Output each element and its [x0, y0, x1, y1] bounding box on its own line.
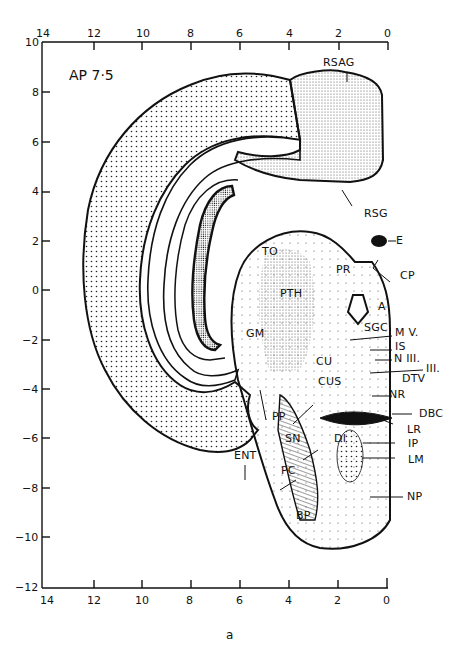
- label-mv: M V.: [395, 327, 418, 338]
- hippocampus: [175, 180, 238, 360]
- figure-caption: a: [226, 628, 233, 642]
- y-tick: −4: [22, 384, 38, 395]
- label-bp: BP: [296, 510, 311, 521]
- x-tick-bottom: 2: [334, 595, 341, 606]
- y-tick: −12: [15, 582, 38, 593]
- label-dtv: DTV: [402, 373, 425, 384]
- label-ip: IP: [408, 438, 418, 449]
- y-tick: 4: [32, 186, 39, 197]
- label-cu: CU: [316, 356, 332, 367]
- e-blob: [371, 235, 387, 247]
- x-tick-top: 0: [384, 28, 391, 39]
- label-pth: PTH: [280, 288, 302, 299]
- label-dbc: DBC: [419, 408, 443, 419]
- y-tick: 2: [32, 236, 39, 247]
- x-tick-bottom: 8: [186, 595, 193, 606]
- label-gm: GM: [246, 328, 264, 339]
- label-sn: SN: [285, 433, 301, 444]
- label-sgc: SGC: [364, 322, 388, 333]
- x-tick-top: 8: [187, 28, 194, 39]
- x-tick-bottom: 0: [383, 595, 390, 606]
- section-label: AP 7·5: [69, 67, 114, 83]
- x-tick-top: 6: [236, 28, 243, 39]
- x-tick-top: 4: [286, 28, 293, 39]
- label-iii: III.: [426, 363, 440, 374]
- label-cp: CP: [400, 270, 415, 281]
- y-tick: 6: [32, 137, 39, 148]
- label-is: IS: [395, 341, 406, 352]
- label-n3: N III.: [394, 353, 420, 364]
- label-e: E: [396, 235, 403, 246]
- y-tick: −2: [22, 335, 38, 346]
- label-np: NP: [407, 491, 422, 502]
- y-tick: −8: [22, 483, 38, 494]
- x-tick-bottom: 4: [285, 595, 292, 606]
- y-tick: 10: [25, 37, 39, 48]
- label-pc: PC: [281, 465, 296, 476]
- x-tick-bottom: 10: [135, 595, 149, 606]
- label-lm: LM: [408, 454, 424, 465]
- label-a: A: [378, 301, 386, 312]
- x-tick-top: 10: [136, 28, 150, 39]
- y-tick: 8: [32, 87, 39, 98]
- x-tick-top: 12: [87, 28, 101, 39]
- y-tick: 0: [32, 285, 39, 296]
- brain-atlas-figure: 14 12 10 8 6 4 2 0 14 12 10 8 6 4 2 0 10…: [0, 0, 467, 650]
- y-tick: −10: [15, 532, 38, 543]
- label-rsg: RSG: [364, 208, 388, 219]
- label-pr: PR: [336, 264, 351, 275]
- x-tick-bottom: 14: [40, 595, 54, 606]
- label-di: DI: [334, 433, 346, 444]
- atlas-drawing: [0, 0, 467, 650]
- label-pp: PP: [272, 411, 286, 422]
- x-tick-bottom: 6: [236, 595, 243, 606]
- label-nr: NR: [389, 389, 405, 400]
- label-lr: LR: [407, 424, 421, 435]
- label-cus: CUS: [318, 376, 341, 387]
- label-to: TO: [262, 246, 278, 257]
- label-rsag: RSAG: [323, 57, 355, 68]
- brainstem: [232, 231, 391, 548]
- x-tick-top: 2: [335, 28, 342, 39]
- label-ent: ENT: [234, 450, 257, 461]
- y-tick: −6: [22, 433, 38, 444]
- x-tick-bottom: 12: [87, 595, 101, 606]
